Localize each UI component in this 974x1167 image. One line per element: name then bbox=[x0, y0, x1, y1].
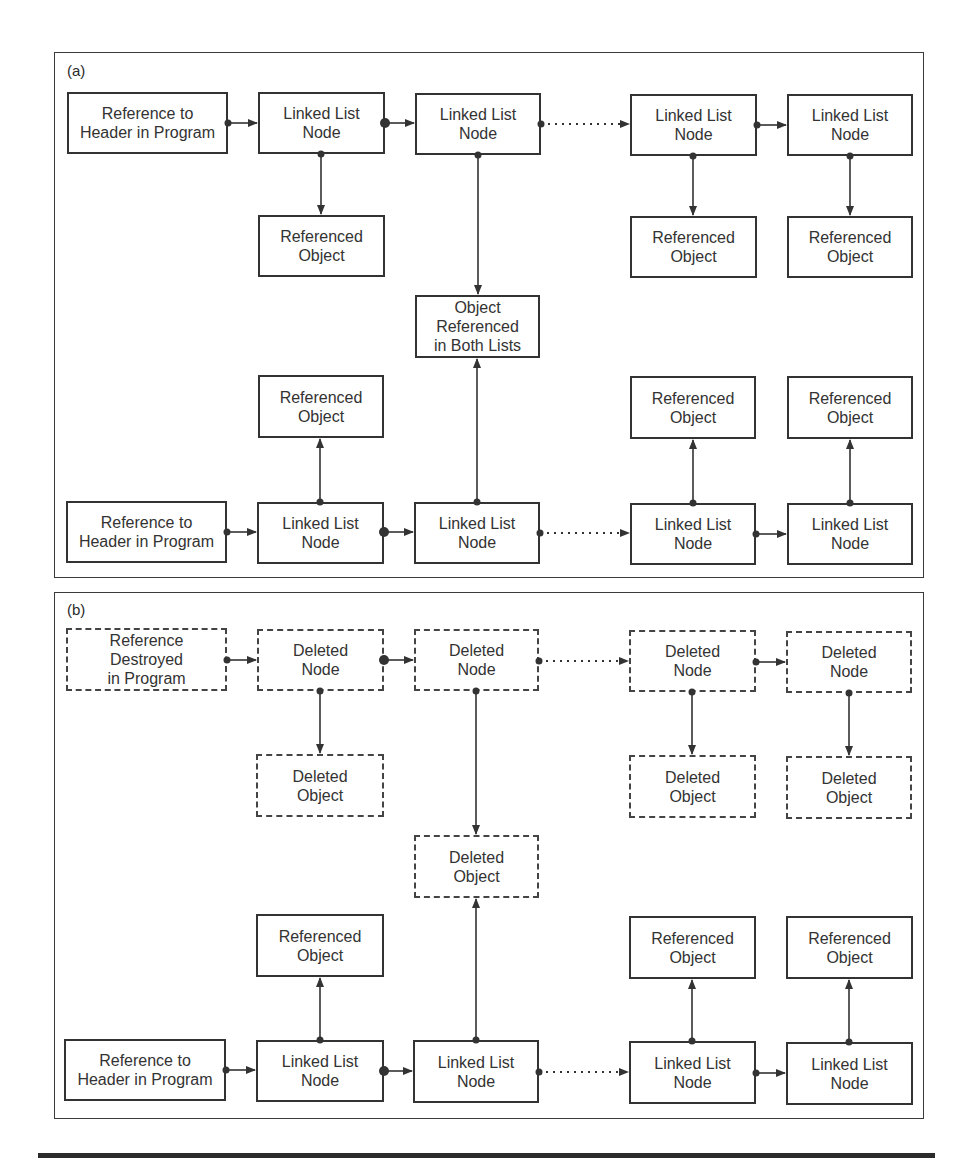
bottom-rule bbox=[38, 1153, 935, 1158]
connector-lines bbox=[0, 0, 974, 1167]
